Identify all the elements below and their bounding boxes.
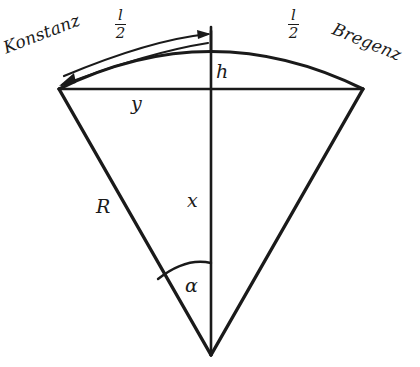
right-radius-line [211,89,363,355]
label-apothem-x: x [187,191,198,210]
label-sagitta-h: h [216,62,228,81]
half-arc-right-denominator: 2 [288,25,299,41]
arc-measure-arrow-upper [64,34,208,76]
half-arc-left-denominator: 2 [115,25,126,41]
label-half-chord-y: y [131,94,142,113]
label-radius-r: R [96,197,110,216]
label-half-arc-right: l 2 [288,8,299,41]
half-arc-right-numerator: l [288,8,299,25]
sector-diagram [0,0,420,367]
left-radius-line [59,89,211,355]
arc-measure-arrowhead-right [197,30,211,39]
half-arc-left-numerator: l [115,8,126,25]
label-angle-alpha: α [185,276,198,295]
label-half-arc-left: l 2 [115,8,126,41]
